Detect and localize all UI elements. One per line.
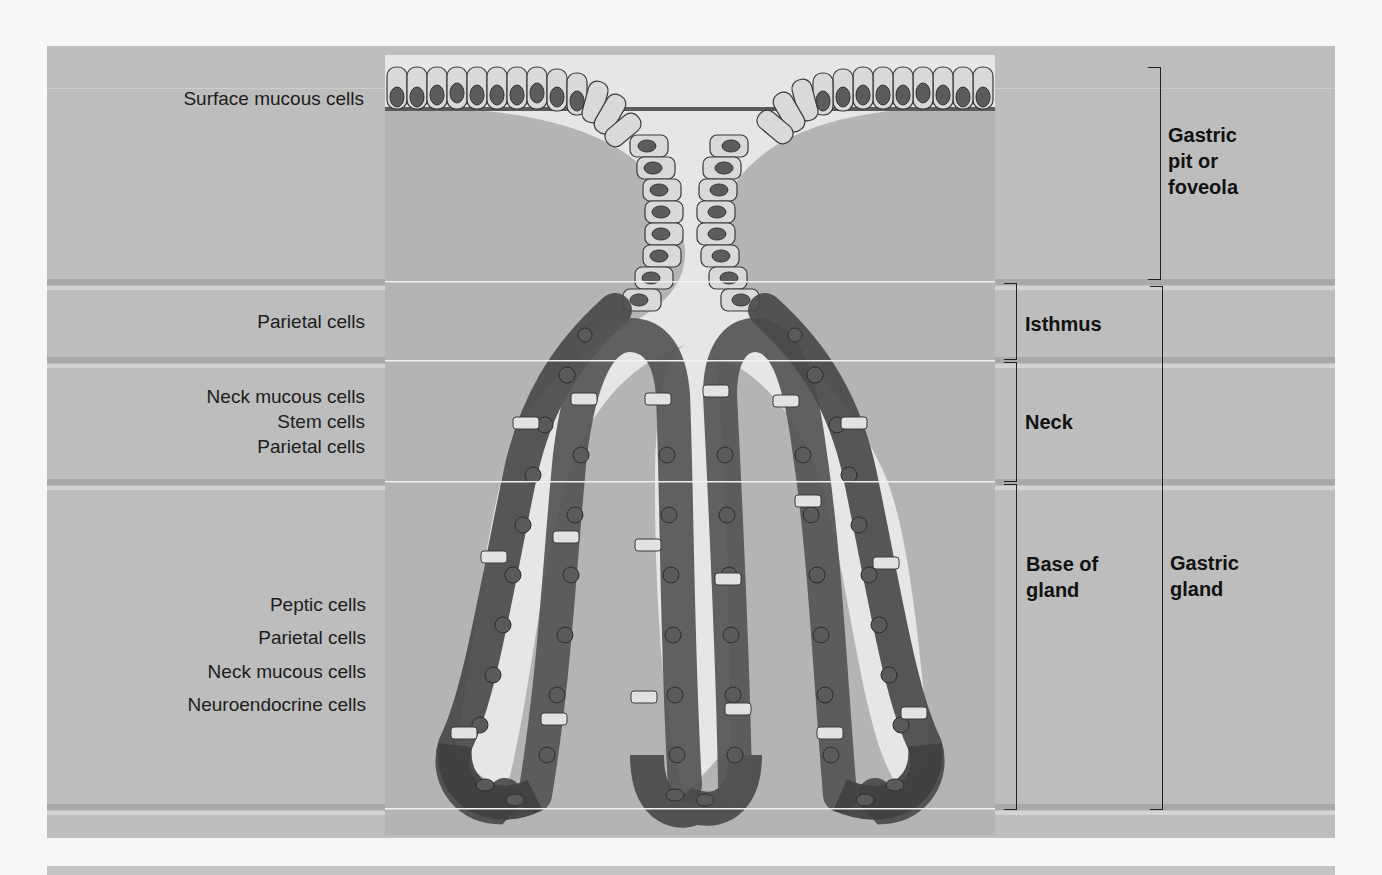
bracket-gastric-pit <box>1148 67 1161 280</box>
label-base-of-gland: Base of gland <box>1026 551 1098 603</box>
label-gastric-gland-line2: gland <box>1170 576 1239 602</box>
bracket-base-of-gland <box>1004 484 1017 810</box>
label-base-line2: gland <box>1026 577 1098 603</box>
label-gastric-pit: Gastric pit or foveola <box>1168 122 1238 200</box>
label-gastric-gland-line1: Gastric <box>1170 550 1239 576</box>
label-neck: Neck <box>1025 409 1073 435</box>
label-isthmus-parietal-cells: Parietal cells <box>257 309 365 334</box>
label-gastric-gland: Gastric gland <box>1170 550 1239 602</box>
label-gastric-pit-line2: pit or <box>1168 148 1238 174</box>
label-neuroendocrine-cells: Neuroendocrine cells <box>188 692 367 717</box>
label-surface-mucous-cells: Surface mucous cells <box>183 86 364 111</box>
label-neck-mucous-cells: Neck mucous cells <box>207 384 365 409</box>
bottom-strip <box>47 866 1335 875</box>
label-stem-cells: Stem cells <box>277 409 365 434</box>
gastric-gland-illustration <box>385 55 995 835</box>
label-gastric-pit-line3: foveola <box>1168 174 1238 200</box>
label-neck-parietal-cells: Parietal cells <box>257 434 365 459</box>
bracket-neck <box>1004 362 1017 482</box>
label-peptic-cells: Peptic cells <box>270 592 366 617</box>
label-isthmus: Isthmus <box>1025 311 1102 337</box>
bracket-gastric-gland <box>1150 286 1163 810</box>
label-base-neck-mucous-cells: Neck mucous cells <box>208 659 366 684</box>
label-base-parietal-cells: Parietal cells <box>258 625 366 650</box>
label-gastric-pit-line1: Gastric <box>1168 122 1238 148</box>
label-base-line1: Base of <box>1026 551 1098 577</box>
bracket-isthmus <box>1004 283 1017 360</box>
